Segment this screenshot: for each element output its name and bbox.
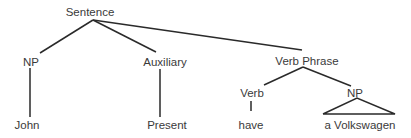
node-np-subject: NP: [23, 56, 39, 68]
leaf-john: John: [15, 119, 40, 131]
node-auxiliary: Auxiliary: [143, 56, 186, 68]
edge-verb-phrase-verb: [264, 67, 303, 85]
edge-verb-phrase-np: [303, 67, 351, 86]
node-sentence: Sentence: [66, 6, 115, 18]
edge-sentence-verb-phrase: [93, 20, 302, 50]
syntax-tree-diagram: Sentence NP Auxiliary Verb Phrase John P…: [0, 0, 411, 138]
node-verb-phrase: Verb Phrase: [275, 55, 338, 67]
leaf-present: Present: [147, 119, 187, 131]
triangle-np-a-volkswagen: [323, 98, 395, 114]
node-verb: Verb: [240, 87, 264, 99]
leaf-a-volkswagen: a Volkswagen: [325, 119, 396, 131]
node-np-object: NP: [347, 87, 363, 99]
edge-sentence-np: [40, 20, 93, 53]
leaf-have: have: [239, 119, 264, 131]
tree-edges: [0, 0, 411, 138]
